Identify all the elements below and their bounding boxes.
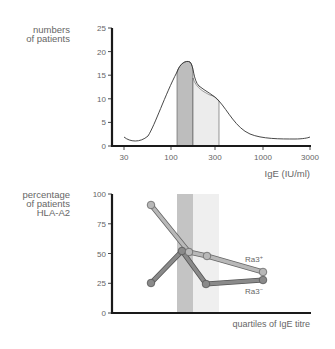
- top-ytick-10: 10: [97, 95, 106, 104]
- label-ra3-minus: Ra3−: [245, 286, 263, 296]
- top-ylabel-line2: of patients: [26, 33, 70, 44]
- bottom-ytick-50: 50: [97, 250, 106, 259]
- bottom-ytick-0: 0: [102, 309, 107, 318]
- bottom-ytick-100: 100: [93, 190, 107, 199]
- label-ra3-plus: Ra3+: [245, 254, 263, 264]
- top-xtick-3000: 3000: [301, 153, 319, 162]
- top-xtick-1000: 1000: [254, 153, 272, 162]
- top-xtick-30: 30: [120, 153, 129, 162]
- top-xtick-300: 300: [208, 153, 222, 162]
- top-ytick-15: 15: [97, 71, 106, 80]
- top-ytick-0: 0: [102, 142, 107, 151]
- bottom-ylabel-line3: HLA-A2: [37, 207, 70, 218]
- top-chart: numbers of patients 0 5 10 15 20 25: [26, 24, 319, 179]
- top-xtick-100: 100: [164, 153, 178, 162]
- bottom-ytick-75: 75: [97, 220, 106, 229]
- shade-dark-region: [177, 61, 193, 146]
- bottom-xlabel: quartiles of IgE titre: [232, 319, 310, 329]
- bottom-chart: percentage of patients HLA-A2: [22, 189, 311, 329]
- top-ytick-5: 5: [102, 118, 107, 127]
- bottom-ytick-25: 25: [97, 279, 106, 288]
- chart-canvas: numbers of patients 0 5 10 15 20 25: [0, 0, 335, 349]
- top-ytick-20: 20: [97, 48, 106, 57]
- shade-light-region: [193, 78, 219, 146]
- top-ytick-25: 25: [97, 24, 106, 33]
- top-xlabel: IgE (IU/ml): [265, 168, 310, 179]
